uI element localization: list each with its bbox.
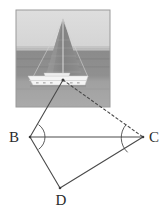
vertex-dot-A — [62, 79, 65, 82]
segment-D-C — [60, 137, 143, 188]
vertex-dot-C — [142, 136, 145, 139]
angle-at-C-arc — [121, 125, 127, 153]
figure-container: B C D — [0, 0, 166, 222]
vertex-label-D: D — [56, 192, 67, 208]
vertex-dot-D — [59, 187, 62, 190]
cabin — [44, 73, 70, 76]
photo-sea-band — [16, 97, 110, 99]
segment-B-D — [30, 137, 60, 188]
vertex-label-C: C — [149, 129, 159, 145]
hull-reflection — [30, 85, 86, 87]
vertex-dot-B — [29, 136, 32, 139]
sailboat-photo — [16, 10, 110, 107]
vertex-label-B: B — [9, 129, 19, 145]
angle-arcs — [39, 125, 128, 153]
geometry-figure: B C D — [0, 0, 166, 222]
photo-sea-band — [16, 88, 110, 90]
